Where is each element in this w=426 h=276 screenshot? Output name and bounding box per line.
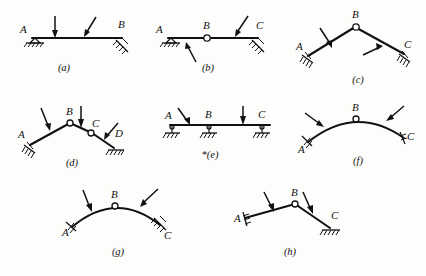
joint-label-g-C: C: [164, 229, 172, 241]
diagram-b: A B C (b): [155, 16, 264, 74]
support-e-C: [253, 125, 270, 138]
joint-label-h-A: A: [233, 212, 241, 224]
support-h-right: [320, 230, 340, 235]
joint-label-e-C: C: [258, 108, 266, 120]
support-a-right: [113, 38, 128, 54]
joint-label-b-C: C: [256, 19, 264, 31]
joint-label-f-A: A: [297, 143, 305, 155]
joint-label-a-B: B: [118, 18, 125, 30]
joint-label-g-B: B: [111, 188, 118, 200]
joint-label-b-A: A: [155, 23, 163, 35]
caption-f: (f): [353, 155, 363, 167]
joint-label-g-A: A: [61, 226, 69, 238]
diagram-e: A B C *(e): [163, 106, 270, 161]
support-b-left: [160, 38, 180, 47]
caption-c: (c): [352, 74, 364, 86]
load-arrow-e2: [240, 106, 246, 125]
joint-label-a-A: A: [19, 23, 27, 35]
structural-diagrams-svg: A B (a): [0, 0, 426, 276]
load-arrow-b2: [235, 16, 248, 37]
load-arrow-f2: [386, 106, 404, 121]
joint-label-f-B: B: [352, 101, 359, 113]
joint-label-c-C: C: [404, 38, 412, 50]
diagram-g: A B C (g): [61, 188, 172, 258]
support-a-left: [24, 38, 44, 47]
joint-label-c-A: A: [295, 40, 303, 52]
hinge-d-C: [88, 130, 94, 136]
support-e-B: [200, 125, 217, 138]
load-arrow-f1: [305, 113, 324, 127]
load-arrow-a2: [84, 17, 96, 37]
load-arrow-b1: [185, 42, 196, 62]
joint-label-d-D: D: [114, 127, 123, 139]
hinge-c-B: [353, 24, 359, 30]
joint-label-e-A: A: [164, 109, 172, 121]
hinge-d-B: [67, 120, 73, 126]
load-arrow-h1: [264, 192, 274, 212]
diagram-a: A B (a): [19, 16, 128, 74]
support-e-A: [163, 125, 180, 138]
joint-label-b-B: B: [203, 19, 210, 31]
hinge-b-B: [204, 35, 210, 41]
diagram-c: A B C (c): [295, 8, 412, 86]
caption-a: (a): [58, 62, 71, 74]
support-d-right: [106, 150, 124, 155]
load-arrow-g2: [140, 189, 158, 207]
joint-label-f-C: C: [407, 130, 415, 142]
joint-label-d-A: A: [17, 128, 25, 140]
diagram-h: A B C (h): [233, 186, 340, 258]
caption-e: *(e): [202, 149, 219, 161]
caption-b: (b): [202, 62, 215, 74]
load-arrow-e1: [178, 108, 190, 125]
joint-label-h-C: C: [331, 209, 339, 221]
joint-label-h-B: B: [291, 186, 298, 198]
caption-d: (d): [66, 157, 79, 169]
caption-g: (g): [112, 246, 125, 258]
frame-member-d3: [92, 133, 114, 148]
diagram-d: A B C D (d): [17, 105, 124, 169]
support-c-right: [397, 51, 410, 67]
load-arrow-d1: [41, 108, 51, 131]
arch-member-g: [72, 208, 160, 227]
diagram-f: A B C (f): [297, 101, 415, 167]
hinge-g-B: [112, 203, 118, 209]
load-arrow-d2: [78, 106, 84, 128]
joint-label-e-B: B: [205, 108, 212, 120]
load-arrow-g1: [83, 190, 92, 212]
figure-panel: A B (a): [0, 0, 426, 276]
hinge-f-B: [353, 116, 359, 122]
caption-h: (h): [284, 246, 297, 258]
hinge-h-B: [292, 201, 298, 207]
support-b-right: [249, 38, 264, 54]
frame-member-c2: [355, 27, 404, 54]
joint-label-d-C: C: [92, 117, 100, 129]
load-arrow-c2: [363, 43, 383, 55]
support-h-left: [243, 212, 251, 226]
joint-label-c-B: B: [352, 8, 359, 20]
load-arrow-a1: [52, 16, 58, 38]
joint-label-d-B: B: [66, 105, 73, 117]
